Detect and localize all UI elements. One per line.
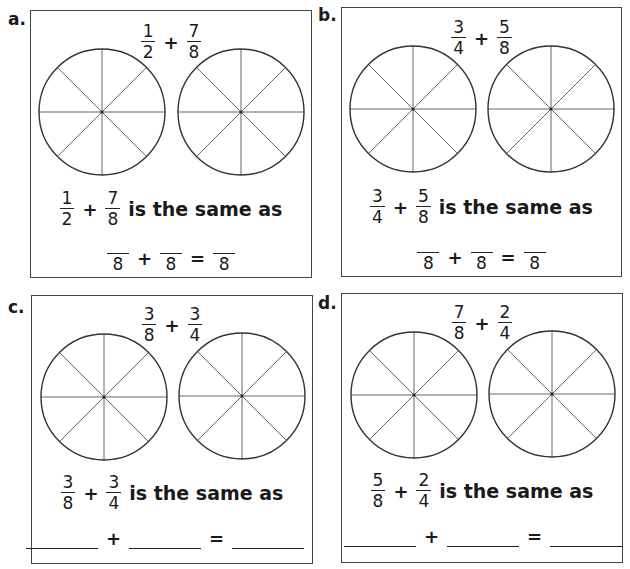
eighths-circle — [177, 331, 307, 461]
equals-sign: = — [209, 528, 224, 549]
denominator: 8 — [418, 207, 429, 226]
panel-c-label: c. — [8, 297, 25, 317]
numerator: 7 — [187, 23, 202, 42]
numerator: 1 — [141, 23, 156, 42]
numerator: 3 — [106, 474, 121, 493]
numerator: 3 — [142, 306, 157, 325]
eighths-circle — [37, 47, 167, 177]
plus-sign: + — [82, 199, 97, 220]
answer-row: 8+8=8 — [342, 242, 621, 272]
eighths-circle — [348, 44, 478, 174]
denominator: 8 — [529, 253, 540, 272]
same-as-statement: 12+78is the same as — [31, 190, 311, 228]
denominator: 8 — [219, 254, 230, 273]
plus-sign: + — [83, 483, 98, 504]
answer-row: += — [12, 528, 318, 549]
denominator: 8 — [423, 253, 434, 272]
eighths-circle — [349, 330, 479, 460]
eighths-circle — [487, 329, 617, 459]
plus-sign: + — [393, 197, 408, 218]
numerator: 7 — [105, 190, 120, 209]
numerator: 2 — [498, 304, 513, 323]
plus-sign: + — [393, 481, 408, 502]
answer-blank-1[interactable] — [26, 530, 98, 549]
equals-sign: = — [190, 248, 205, 269]
denominator: 8 — [373, 491, 384, 510]
denominator: 4 — [372, 207, 383, 226]
numerator: 5 — [497, 19, 512, 38]
numerator: 3 — [370, 188, 385, 207]
numerator: 3 — [61, 474, 76, 493]
equals-sign: = — [501, 247, 516, 268]
denominator: 4 — [418, 491, 429, 510]
denominator: 8 — [476, 253, 487, 272]
eighths-circle — [39, 332, 169, 462]
answer-blank-3[interactable] — [550, 528, 622, 547]
numerator: 7 — [452, 304, 467, 323]
denominator: 8 — [112, 254, 123, 273]
numerator: 2 — [416, 472, 431, 491]
answer-blank-2[interactable] — [447, 528, 519, 547]
plus-sign: + — [447, 247, 462, 268]
denominator: 8 — [63, 493, 74, 512]
answer-row: += — [334, 526, 630, 547]
plus-sign: + — [106, 528, 121, 549]
denominator: 4 — [108, 493, 119, 512]
denominator: 8 — [166, 254, 177, 273]
answer-fraction-3[interactable]: 8 — [524, 242, 546, 272]
same-as-text: is the same as — [128, 198, 282, 220]
numerator: 5 — [371, 472, 386, 491]
denominator: 8 — [107, 209, 118, 228]
panel-c: 38+34 38+34is the same as += — [31, 295, 313, 564]
numerator: 1 — [60, 190, 75, 209]
panel-b: 34+58 34+58is the same as 8+8=8 — [341, 7, 622, 277]
answer-fraction-2[interactable]: 8 — [160, 243, 182, 273]
numerator: 5 — [416, 188, 431, 207]
panel-a: 12+78 12+78is the same as 8+8=8 — [30, 10, 312, 278]
numerator: 3 — [451, 19, 466, 38]
equals-sign: = — [527, 526, 542, 547]
eighths-circle — [486, 44, 616, 174]
panel-b-label: b. — [318, 5, 337, 25]
numerator: 3 — [188, 306, 203, 325]
denominator: 2 — [62, 209, 73, 228]
same-as-statement: 38+34is the same as — [32, 474, 312, 512]
panel-d-label: d. — [318, 293, 337, 313]
same-as-statement: 34+58is the same as — [342, 188, 621, 226]
answer-blank-1[interactable] — [344, 528, 416, 547]
plus-sign: + — [424, 526, 439, 547]
same-as-text: is the same as — [129, 482, 283, 504]
plus-sign: + — [137, 248, 152, 269]
answer-blank-2[interactable] — [129, 530, 201, 549]
same-as-text: is the same as — [439, 196, 593, 218]
eighths-circle — [176, 47, 306, 177]
same-as-text: is the same as — [439, 480, 593, 502]
same-as-statement: 58+24is the same as — [342, 472, 622, 510]
answer-fraction-2[interactable]: 8 — [471, 242, 493, 272]
answer-fraction-1[interactable]: 8 — [417, 242, 439, 272]
panel-d: 78+24 58+24is the same as += — [341, 293, 623, 563]
answer-fraction-3[interactable]: 8 — [213, 243, 235, 273]
panel-a-label: a. — [8, 9, 26, 29]
answer-blank-3[interactable] — [232, 530, 304, 549]
answer-row: 8+8=8 — [31, 243, 311, 273]
answer-fraction-1[interactable]: 8 — [107, 243, 129, 273]
